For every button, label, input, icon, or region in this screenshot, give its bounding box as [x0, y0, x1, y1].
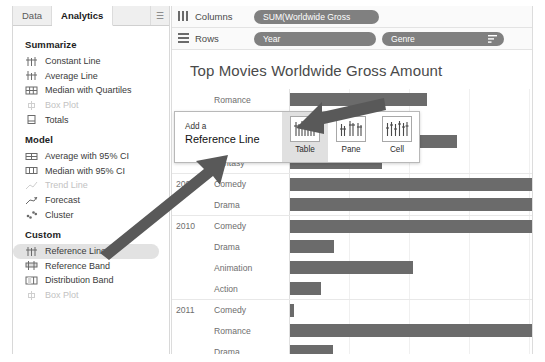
analytics-item-reference-band[interactable]: Reference Band: [13, 259, 169, 274]
median-ci-icon: [25, 165, 38, 176]
row-year-label: 2011: [172, 300, 214, 320]
analytics-item-label: Box Plot: [45, 100, 79, 110]
cluster-icon: [25, 209, 38, 220]
analytics-item-label: Median with Quartiles: [45, 85, 132, 95]
row-genre-label: Romance: [214, 89, 289, 110]
bar-mark[interactable]: [290, 282, 321, 295]
columns-shelf[interactable]: Columns SUM(Worldwide Gross: [172, 6, 532, 28]
scope-option-label: Cell: [390, 145, 404, 154]
rows-shelf-label: Rows: [195, 33, 219, 44]
median-quartiles-icon: [25, 85, 38, 96]
pill-genre[interactable]: Genre: [382, 32, 504, 46]
analytics-item-label: Box Plot: [45, 290, 79, 300]
row-year-label: [172, 320, 214, 341]
scope-option-label: Pane: [341, 145, 360, 154]
pane-tab-strip: Data Analytics ☰: [13, 6, 169, 26]
bar-mark[interactable]: [290, 324, 532, 337]
analytics-item-trend-line: Trend Line: [13, 178, 169, 193]
row-bar-cell: [289, 341, 532, 354]
bar-mark[interactable]: [290, 198, 532, 211]
pill-label: SUM(Worldwide Gross: [263, 12, 350, 22]
pill-sum-worldwide-gross[interactable]: SUM(Worldwide Gross: [254, 10, 379, 24]
totals-icon: [25, 114, 38, 125]
analytics-item-median-with-quartiles[interactable]: Median with Quartiles: [13, 83, 169, 98]
analytics-item-average-with-95-ci[interactable]: Average with 95% CI: [13, 149, 169, 164]
analytics-item-constant-line[interactable]: Constant Line: [13, 54, 169, 69]
columns-shelf-label: Columns: [195, 11, 233, 22]
trend-line-icon: [25, 180, 38, 191]
row-bar-cell: [289, 300, 532, 320]
row-year-label: 2010: [172, 216, 214, 236]
scope-table-icon: [290, 116, 320, 142]
analytics-item-cluster[interactable]: Cluster: [13, 207, 169, 222]
tableau-worksheet-screenshot: Data Analytics ☰ Summarize: [0, 0, 545, 362]
analytics-item-forecast[interactable]: Forecast: [13, 193, 169, 208]
pill-year[interactable]: Year: [254, 32, 376, 46]
analytics-item-reference-line[interactable]: Reference Line: [13, 244, 159, 259]
average-line-icon: [25, 70, 38, 81]
table-row[interactable]: Drama: [172, 236, 532, 257]
reference-line-icon: [25, 246, 38, 257]
table-row[interactable]: Animation: [172, 257, 532, 278]
row-bar-cell: [289, 278, 532, 299]
row-genre-label: Comedy: [214, 174, 289, 194]
table-row[interactable]: 2009Comedy: [172, 173, 532, 194]
scope-option-table[interactable]: Table: [282, 112, 328, 162]
row-year-label: 2009: [172, 174, 214, 194]
analytics-item-distribution-band[interactable]: Distribution Band: [13, 273, 169, 288]
table-row[interactable]: Action: [172, 278, 532, 299]
row-bar-cell: [289, 236, 532, 257]
bar-mark[interactable]: [290, 178, 532, 191]
bar-mark[interactable]: [290, 345, 333, 354]
visualization-area: Top Movies Worldwide Gross Amount Romanc…: [172, 50, 532, 354]
row-year-label: [172, 236, 214, 257]
row-genre-label: Comedy: [214, 216, 289, 236]
rows-shelf[interactable]: Rows Year Genre: [172, 28, 532, 50]
row-genre-label: Drama: [214, 341, 289, 354]
bar-mark[interactable]: [290, 261, 413, 274]
distribution-band-icon: [25, 275, 38, 286]
row-bar-cell: [289, 320, 532, 341]
rows-icon: [178, 33, 189, 45]
columns-shelf-label-group: Columns: [172, 11, 254, 23]
row-year-label: [172, 341, 214, 354]
analytics-item-median-with-95-ci[interactable]: Median with 95% CI: [13, 164, 169, 179]
constant-line-icon: [25, 56, 38, 67]
sort-descending-icon[interactable]: [488, 35, 497, 45]
pill-label: Year: [263, 34, 280, 44]
table-row[interactable]: 2010Comedy: [172, 215, 532, 236]
scope-pane-icon: [336, 116, 366, 142]
bar-mark[interactable]: [290, 220, 532, 233]
bar-mark[interactable]: [290, 240, 334, 253]
table-row[interactable]: 2011Comedy: [172, 299, 532, 320]
scope-option-cell[interactable]: Cell: [374, 112, 420, 162]
table-row[interactable]: Romance: [172, 320, 532, 341]
scope-option-pane[interactable]: Pane: [328, 112, 374, 162]
section-header-model: Model: [13, 127, 169, 149]
tab-strip-spacer: [113, 6, 151, 25]
analytics-item-label: Cluster: [45, 210, 74, 220]
row-bar-cell: [289, 257, 532, 278]
analytics-item-label: Median with 95% CI: [45, 166, 125, 176]
analytics-item-average-line[interactable]: Average Line: [13, 69, 169, 84]
table-row[interactable]: Drama: [172, 341, 532, 354]
table-row[interactable]: Drama: [172, 194, 532, 215]
analytics-item-label: Average Line: [45, 71, 98, 81]
analytics-item-box-plot-custom: Box Plot: [13, 288, 169, 303]
bar-mark[interactable]: [290, 93, 427, 106]
popup-line-1: Add a: [185, 121, 282, 132]
table-row[interactable]: Romance: [172, 89, 532, 110]
tab-data[interactable]: Data: [13, 6, 52, 25]
analytics-item-totals[interactable]: Totals: [13, 112, 169, 127]
row-genre-label: Drama: [214, 236, 289, 257]
tab-analytics[interactable]: Analytics: [52, 6, 113, 26]
analytics-item-label: Average with 95% CI: [45, 151, 129, 161]
row-genre-label: Action: [214, 278, 289, 299]
columns-icon: [178, 11, 189, 23]
popup-line-2: Reference Line: [185, 132, 282, 146]
box-plot-icon: [25, 100, 38, 111]
row-year-label: [172, 89, 214, 110]
bar-mark[interactable]: [290, 304, 294, 317]
analytics-item-label: Totals: [45, 115, 69, 125]
pane-menu-icon[interactable]: ☰: [151, 6, 169, 25]
